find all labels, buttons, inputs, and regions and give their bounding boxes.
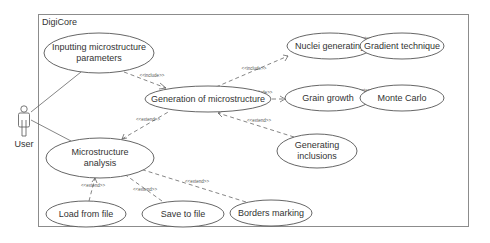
use-case-inclusions[interactable]: Generating inclusions xyxy=(277,134,357,168)
use-case-analysis[interactable]: Microstructure analysis xyxy=(46,138,154,178)
svg-text:Microstructure: Microstructure xyxy=(71,147,128,157)
svg-text:<<extend>>: <<extend>> xyxy=(133,187,157,192)
svg-text:<<extend>>: <<extend>> xyxy=(81,183,105,188)
svg-text:<<include>>: <<include>> xyxy=(140,73,165,78)
svg-text:Borders marking: Borders marking xyxy=(238,208,304,218)
svg-text:<<extend>>: <<extend>> xyxy=(185,179,209,184)
actor-label: User xyxy=(14,139,33,149)
use-case-diagram: DigiCore <<include>> <<include>> <<inclu… xyxy=(0,0,490,243)
svg-text:Inputting microstructure: Inputting microstructure xyxy=(52,42,146,52)
actor-user[interactable]: User xyxy=(14,106,33,149)
use-case-generation[interactable]: Generation of microstructure xyxy=(145,86,271,112)
svg-text:Gradient technique: Gradient technique xyxy=(364,41,440,51)
svg-text:Save to file: Save to file xyxy=(161,209,206,219)
actor-icon xyxy=(19,106,30,136)
use-case-montecarlo[interactable]: Monte Carlo xyxy=(360,85,444,111)
svg-text:<<include>>: <<include>> xyxy=(242,66,267,71)
svg-text:analysis: analysis xyxy=(84,158,117,168)
system-title: DigiCore xyxy=(42,17,77,27)
use-case-borders[interactable]: Borders marking xyxy=(230,200,312,226)
svg-text:Grain growth: Grain growth xyxy=(302,93,354,103)
svg-text:inclusions: inclusions xyxy=(297,151,337,161)
use-case-load[interactable]: Load from file xyxy=(46,201,126,227)
use-case-save[interactable]: Save to file xyxy=(142,201,224,227)
svg-text:Nuclei generating: Nuclei generating xyxy=(295,41,365,51)
svg-text:<<extend>>: <<extend>> xyxy=(136,117,160,122)
svg-text:Load from file: Load from file xyxy=(59,209,114,219)
svg-text:parameters: parameters xyxy=(76,53,122,63)
svg-text:Monte Carlo: Monte Carlo xyxy=(377,93,426,103)
use-case-grain[interactable]: Grain growth xyxy=(285,85,371,111)
use-case-gradient[interactable]: Gradient technique xyxy=(360,33,444,59)
use-case-inputting[interactable]: Inputting microstructure parameters xyxy=(44,33,154,73)
svg-text:Generating: Generating xyxy=(295,140,340,150)
svg-text:<<extend>>: <<extend>> xyxy=(247,118,271,123)
svg-text:Generation of microstructure: Generation of microstructure xyxy=(151,94,265,104)
